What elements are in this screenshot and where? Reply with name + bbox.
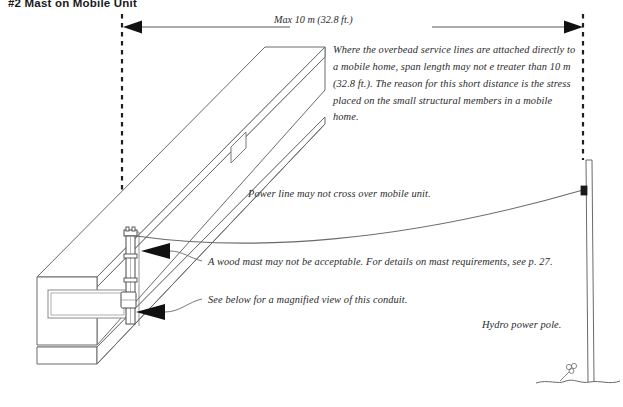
weatherhead-lug-right — [132, 227, 135, 231]
dimension-label: Max 10 m (32.8 ft.) — [274, 14, 353, 25]
end-skirting — [37, 347, 97, 364]
diagram-page: #2 Mast on Mobile Unit — [0, 0, 623, 407]
conduit-callout-leader — [165, 299, 202, 312]
note-conduit-magnified: See below for a magnified view of this c… — [208, 292, 408, 309]
shrub — [560, 363, 577, 381]
note-span-length: Where the overbead service lines are att… — [333, 42, 577, 126]
pole-attachment-bracket — [581, 186, 587, 195]
hydro-power-pole — [536, 160, 620, 383]
end-wall-window-inner — [51, 293, 124, 315]
shrub-leaf-right — [571, 363, 576, 368]
dimension-arrows — [123, 21, 583, 34]
pole-right-edge — [592, 160, 594, 382]
conduit-strap-lower — [124, 278, 137, 282]
note-hydro-pole: Hydro power pole. — [482, 317, 562, 334]
ground-line — [536, 380, 620, 383]
note-power-line: Power line may not cross over mobile uni… — [248, 186, 431, 203]
right-arrowhead — [564, 21, 583, 34]
note-wood-mast: A wood mast may not be acceptable. For d… — [208, 254, 553, 271]
shrub-leaf-bottom — [569, 369, 574, 374]
weatherhead-lug-left — [126, 227, 129, 231]
shrub-stem — [560, 372, 569, 381]
conduit-strap-upper — [124, 254, 137, 258]
left-arrowhead — [123, 21, 142, 34]
mobile-home — [37, 47, 325, 364]
